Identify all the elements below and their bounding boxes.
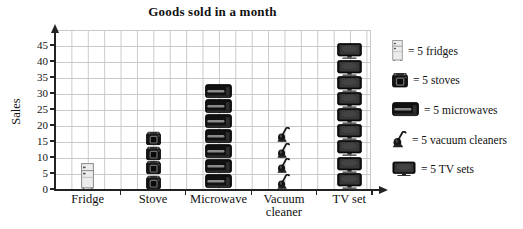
vacuum-icon: [276, 174, 291, 190]
vacuum-icon: [276, 158, 291, 174]
legend-label: = 5 vacuum cleaners: [412, 134, 507, 146]
microwave-icon: [205, 144, 232, 159]
y-tick-label: 20: [26, 119, 48, 131]
vacuum-icon: [276, 143, 291, 159]
stove-icon: [146, 131, 161, 145]
microwave-icon: [205, 174, 232, 189]
legend-stove-icon: [392, 72, 408, 88]
stove-icon: [146, 175, 161, 189]
y-axis-label: Sales: [9, 88, 24, 136]
legend-microwave-icon: [392, 102, 419, 117]
tv-icon: [336, 157, 363, 173]
tv-icon: [336, 60, 363, 76]
legend-item-microwaves: = 5 microwaves: [392, 95, 507, 125]
legend-item-vacuums: = 5 vacuum cleaners: [392, 125, 507, 155]
stove-icon: [146, 160, 161, 174]
tv-icon: [336, 124, 363, 140]
y-tick-label: 10: [26, 151, 48, 163]
y-tick-mark: [50, 60, 55, 61]
legend-fridge-icon: [392, 40, 403, 61]
tv-icon: [336, 43, 363, 59]
y-tick-label: 45: [26, 39, 48, 51]
chart-title: Goods sold in a month: [55, 4, 370, 20]
y-tick-label: 0: [26, 183, 48, 195]
y-tick-mark: [50, 188, 55, 189]
y-axis-line: [54, 32, 56, 190]
category-label-vacuum: Vacuum cleaner: [248, 193, 320, 219]
y-tick-label: 30: [26, 87, 48, 99]
legend: = 5 fridges = 5 stoves = 5 microwaves = …: [392, 36, 507, 184]
y-tick-mark: [50, 44, 55, 45]
stove-icon: [146, 146, 161, 160]
fridge-icon: [81, 163, 94, 189]
y-tick-mark: [50, 92, 55, 93]
tv-icon: [336, 108, 363, 124]
pictograph-chart: Goods sold in a month Sales 051015202530…: [0, 0, 523, 229]
category-label-stove: Stove: [117, 193, 189, 206]
y-tick-label: 25: [26, 103, 48, 115]
x-axis-line: [54, 189, 380, 191]
legend-label: = 5 fridges: [408, 45, 458, 57]
microwave-icon: [205, 129, 232, 144]
legend-vacuum-icon: [392, 131, 407, 148]
category-label-fridge: Fridge: [52, 193, 124, 206]
vacuum-cleaner-stack: [276, 127, 291, 189]
category-label-tvset: TV set: [313, 193, 385, 206]
fridge-stack: [81, 163, 94, 189]
tv-icon: [336, 76, 363, 92]
microwave-icon: [205, 114, 232, 129]
microwave-icon: [205, 99, 232, 114]
y-tick-label: 35: [26, 71, 48, 83]
y-tick-mark: [50, 76, 55, 77]
legend-item-stoves: = 5 stoves: [392, 66, 507, 96]
microwave-icon: [205, 159, 232, 174]
tv-set-stack: [336, 43, 363, 189]
y-axis-arrow-icon: [51, 24, 59, 33]
vacuum-icon: [276, 127, 291, 143]
legend-label: = 5 microwaves: [424, 104, 498, 116]
y-tick-mark: [50, 108, 55, 109]
y-tick-label: 15: [26, 135, 48, 147]
y-tick-mark: [50, 124, 55, 125]
tv-icon: [336, 140, 363, 156]
y-tick-label: 5: [26, 167, 48, 179]
microwave-stack: [205, 84, 232, 189]
y-tick-mark: [50, 156, 55, 157]
legend-item-fridges: = 5 fridges: [392, 36, 507, 66]
tv-icon: [336, 173, 363, 189]
legend-item-tvsets: = 5 TV sets: [392, 154, 507, 184]
legend-tv-icon: [392, 161, 416, 177]
category-label-microwave: Microwave: [183, 193, 255, 206]
y-tick-mark: [50, 140, 55, 141]
stove-stack: [146, 131, 161, 189]
microwave-icon: [205, 84, 232, 99]
legend-label: = 5 TV sets: [421, 163, 474, 175]
tv-icon: [336, 92, 363, 108]
y-tick-mark: [50, 172, 55, 173]
y-tick-label: 40: [26, 55, 48, 67]
legend-label: = 5 stoves: [413, 74, 460, 86]
